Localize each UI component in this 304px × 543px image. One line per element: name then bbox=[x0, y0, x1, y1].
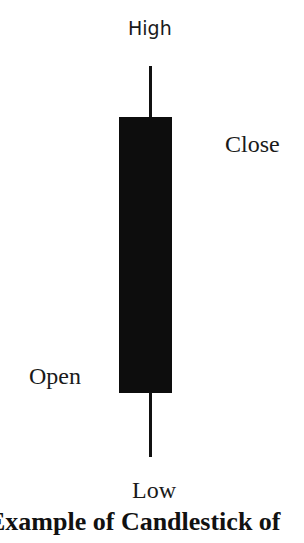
upper-wick bbox=[149, 66, 152, 118]
high-label: High bbox=[128, 17, 172, 39]
figure-caption: Example of Candlestick of bbox=[0, 507, 281, 537]
lower-wick bbox=[149, 392, 152, 457]
low-label: Low bbox=[132, 477, 176, 504]
close-label: Close bbox=[225, 131, 280, 158]
candlestick-body bbox=[119, 117, 172, 393]
open-label: Open bbox=[29, 363, 81, 390]
